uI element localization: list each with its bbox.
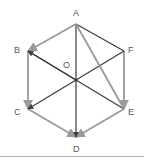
- bottom-divider: [0, 156, 144, 157]
- vertex-label-C: C: [14, 108, 21, 117]
- vertex-label-F: F: [128, 46, 134, 55]
- hexagon-diagram-svg: [0, 0, 144, 161]
- vertex-label-E: E: [128, 108, 134, 117]
- edge-E-D: [76, 109, 124, 137]
- vertex-label-A: A: [73, 9, 79, 18]
- edge-A-E: [76, 24, 124, 109]
- hexagon-vector-figure: ABCDEFO: [0, 0, 144, 161]
- vertex-label-D: D: [73, 145, 80, 154]
- edge-C-D: [28, 109, 76, 137]
- node-layer: [74, 78, 77, 81]
- center-point-O: [74, 78, 77, 81]
- vertex-label-O: O: [63, 61, 70, 70]
- vertex-label-B: B: [14, 46, 20, 55]
- edge-A-B: [28, 24, 76, 51]
